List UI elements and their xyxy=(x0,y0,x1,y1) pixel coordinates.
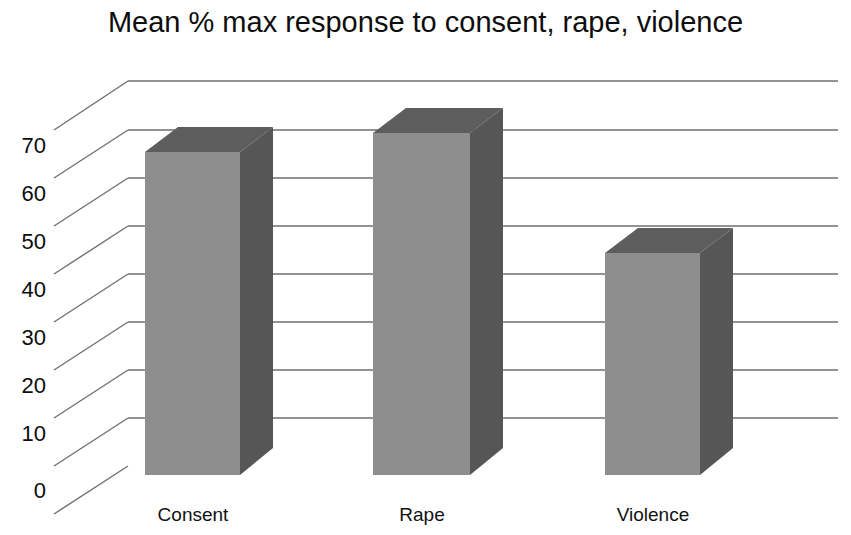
bar-consent xyxy=(145,127,273,475)
depth-line-70 xyxy=(54,130,128,178)
depth-line-80 xyxy=(54,81,128,130)
bar-rape-side xyxy=(470,108,503,475)
bar-violence xyxy=(605,228,733,475)
bar-rape xyxy=(373,108,503,475)
x-axis-label-consent: Consent xyxy=(123,505,263,525)
bar-consent-front xyxy=(145,152,240,475)
depth-line-30 xyxy=(54,322,128,370)
depth-line-60 xyxy=(54,178,128,226)
x-axis-label-violence: Violence xyxy=(583,505,723,525)
bar-chart: Mean % max response to consent, rape, vi… xyxy=(0,0,851,535)
plot-area xyxy=(0,0,851,535)
depth-line-10 xyxy=(54,418,128,466)
depth-line-40 xyxy=(54,274,128,322)
depth-line-20 xyxy=(54,370,128,418)
bar-consent-side xyxy=(240,127,273,475)
depth-line-0 xyxy=(54,466,128,514)
bar-rape-front xyxy=(373,133,470,475)
depth-line-50 xyxy=(54,226,128,274)
x-axis-label-rape: Rape xyxy=(352,505,492,525)
depth-connectors-group xyxy=(54,81,128,514)
bar-violence-front xyxy=(605,253,700,475)
bar-violence-side xyxy=(700,228,733,475)
